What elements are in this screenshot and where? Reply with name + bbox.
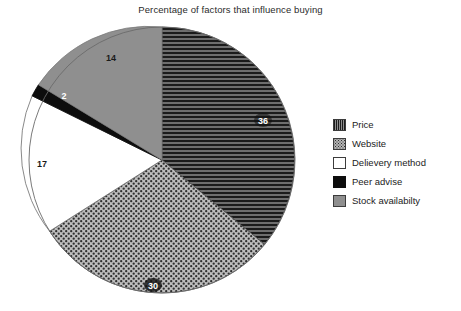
pie-label-price: 36 [258,116,268,126]
pie-slices [21,26,295,293]
legend-label-website: Website [352,139,386,149]
pie-label-website: 30 [148,281,158,291]
legend-swatch-price-icon [333,119,346,131]
legend-label-stock-availabilty: Stock availabilty [352,196,420,206]
pie-label-stock-availabilty: 14 [106,53,116,63]
pie-chart: 36 30 17 2 14 [0,0,320,311]
pie-label-delievery-method: 17 [37,159,47,169]
legend-swatch-peer-advise-icon [333,176,346,188]
pie-label-peer-advise: 2 [61,91,66,101]
legend-label-delievery-method: Delievery method [352,158,426,168]
legend-item-stock-availabilty[interactable]: Stock availabilty [333,191,459,210]
legend-swatch-website-icon [333,138,346,150]
legend-swatch-stock-availabilty-icon [333,195,346,207]
legend-label-price: Price [352,120,374,130]
chart-legend: Price Website Delievery method Peer advi… [333,115,459,210]
legend-label-peer-advise: Peer advise [352,177,402,187]
pie-chart-svg: 36 30 17 2 14 [0,0,320,311]
legend-item-peer-advise[interactable]: Peer advise [333,172,459,191]
legend-item-price[interactable]: Price [333,115,459,134]
legend-item-website[interactable]: Website [333,134,459,153]
legend-item-delievery-method[interactable]: Delievery method [333,153,459,172]
legend-swatch-delievery-method-icon [333,157,346,169]
